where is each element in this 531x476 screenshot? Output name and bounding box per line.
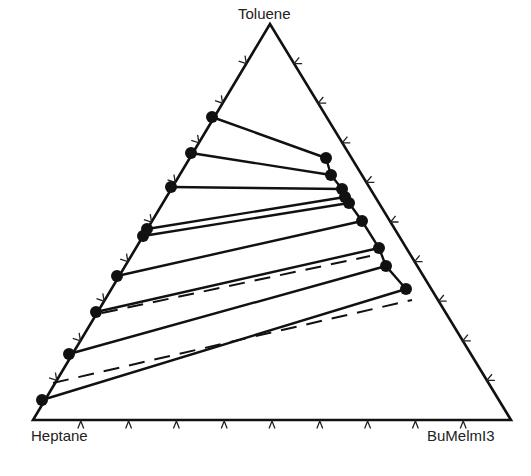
tie-line — [147, 197, 345, 229]
vertex-label-heptane: Heptane — [31, 427, 88, 444]
tie-line — [191, 153, 331, 175]
data-point — [206, 111, 218, 123]
data-point — [63, 348, 75, 360]
data-point — [165, 181, 177, 193]
tie-line — [117, 221, 362, 276]
data-point — [356, 215, 368, 227]
tick-mark — [415, 255, 423, 261]
tick-mark — [239, 56, 247, 64]
tick-mark — [120, 254, 128, 262]
dashed-tie-lines — [53, 256, 412, 383]
tick-mark — [73, 333, 81, 341]
data-point — [320, 152, 332, 164]
data-point — [90, 306, 102, 318]
data-points — [36, 111, 412, 406]
tick-mark — [144, 214, 152, 222]
vertex-label-toluene: Toluene — [238, 5, 291, 22]
tick-mark — [96, 293, 104, 301]
tick-mark — [487, 374, 495, 380]
tick-mark — [365, 421, 371, 428]
tie-line — [171, 187, 342, 189]
tick-mark — [317, 421, 323, 428]
dashed-tie-line — [102, 256, 370, 313]
triangle-outline — [33, 24, 511, 420]
tick-mark — [318, 97, 326, 103]
data-point — [380, 260, 392, 272]
tick-mark — [221, 421, 227, 428]
tick-mark — [269, 421, 275, 428]
data-point — [36, 394, 48, 406]
tick-mark — [366, 176, 374, 182]
ternary-chart — [0, 0, 531, 476]
data-point — [185, 147, 197, 159]
data-point — [111, 270, 123, 282]
tick-mark — [391, 216, 399, 222]
tick-mark — [463, 335, 471, 341]
triangle-frame — [33, 24, 511, 420]
data-point — [343, 197, 355, 209]
tie-line — [212, 117, 326, 158]
data-point — [325, 169, 337, 181]
tick-mark — [439, 295, 447, 301]
tick-mark — [294, 57, 302, 63]
vertex-label-bumeim: BuMelmI3 — [427, 427, 495, 444]
data-point — [400, 283, 412, 295]
tick-mark — [191, 135, 199, 143]
data-point — [373, 242, 385, 254]
tie-line — [42, 289, 406, 400]
tick-mark — [342, 137, 350, 143]
tick-mark — [215, 95, 223, 103]
tick-mark — [412, 421, 418, 428]
tick-mark — [173, 421, 179, 428]
tick-mark — [49, 372, 57, 380]
data-point — [137, 230, 149, 242]
tick-mark — [126, 421, 132, 428]
